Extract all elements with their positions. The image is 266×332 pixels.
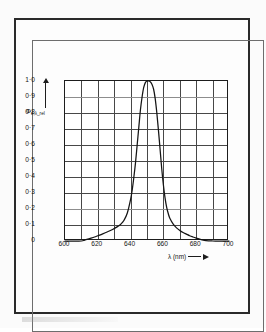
y-tick-label: 0·4 [11,173,35,180]
y-axis-arrow-icon [45,82,46,108]
y-tick-label: 0·6 [11,141,35,148]
curve-path [65,81,229,241]
x-tick-label: 660 [149,241,175,248]
x-tick-label: 620 [84,241,110,248]
x-axis-label-group: λ (nm) [168,253,209,260]
y-tick-label: 0·9 [11,93,35,100]
x-axis-arrow-line [188,256,201,257]
y-tick-label: 1·0 [11,77,35,84]
y-tick-label: 0·1 [11,221,35,228]
x-tick-label: 700 [215,241,241,248]
y-tick-label: 0·8 [11,109,35,116]
x-axis-arrow-icon [203,254,209,260]
y-tick-label: 0·3 [11,189,35,196]
x-tick-label: 600 [51,241,77,248]
plot-area [64,80,228,240]
y-tick-label: 0 [11,237,35,244]
spectral-curve [65,81,229,241]
y-tick-label: 0·2 [11,205,35,212]
scan-artifact [22,317,118,322]
x-tick-label: 680 [182,241,208,248]
x-tick-label: 640 [117,241,143,248]
y-tick-label: 0·5 [11,157,35,164]
x-axis-label: λ (nm) [168,253,186,260]
y-tick-label: 0·7 [11,125,35,132]
